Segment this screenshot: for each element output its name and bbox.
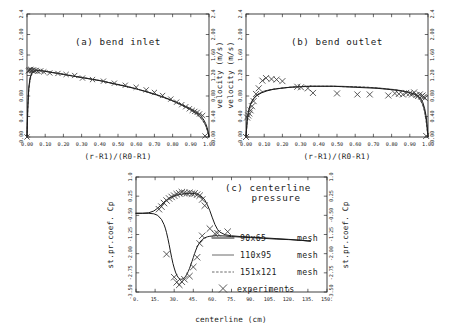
- x-tick-label: 15.: [151, 296, 160, 302]
- x-tick-label: 0.70: [148, 141, 160, 147]
- y-tick-label-right: -2.00: [328, 246, 334, 261]
- y-tick-label-left: 2.00: [18, 29, 24, 41]
- y-tick-label-right: 2.00: [429, 29, 435, 41]
- experiment-marker: [224, 228, 230, 234]
- legend-swatch-marker-x: [219, 285, 227, 293]
- x-tick-label: 75.: [227, 296, 236, 302]
- panel-a-curves: [27, 70, 209, 137]
- panel-a-ylabel: velocity (m/s): [215, 42, 224, 109]
- y-tick-label-right: 2.00: [210, 29, 216, 41]
- panel-b-xlabel: (r-R1)/(R0-R1): [304, 152, 371, 161]
- panel-b-experiment-markers: [243, 75, 429, 140]
- y-tick-label-left: 1.20: [18, 70, 24, 82]
- y-tick-label-right: 2.4: [210, 10, 216, 19]
- experiment-marker: [190, 264, 196, 270]
- x-tick-label: 0.30: [295, 141, 307, 147]
- experiment-marker: [279, 78, 285, 84]
- x-tick-label: 0.: [133, 296, 139, 302]
- legend-label-110x95: 110x95: [240, 250, 271, 260]
- panel-c-title-line2: pressure: [251, 192, 300, 203]
- legend-entry-90x65[interactable]: 90x65 mesh: [212, 233, 318, 243]
- y-tick-label-right: 0.80: [429, 90, 435, 102]
- experiment-marker: [202, 133, 207, 138]
- y-tick-label-right: -2.75: [328, 265, 334, 280]
- panel-c-legend: 90x65 mesh 110x95 mesh 151x121 mesh: [212, 233, 318, 294]
- x-tick-label: 0.10: [39, 141, 51, 147]
- experiment-marker: [385, 92, 391, 98]
- y-tick-label-left: 0.40: [18, 111, 24, 123]
- experiment-marker: [334, 90, 340, 96]
- experiment-marker: [354, 91, 360, 97]
- legend-suffix-90x65: mesh: [297, 233, 318, 243]
- y-tick-label-left: -1.25: [127, 227, 133, 242]
- series-curve: [27, 70, 209, 137]
- panel-b: 0.000.100.200.300.400.500.600.700.800.90…: [226, 10, 435, 161]
- y-tick-label-right: 0.40: [429, 111, 435, 123]
- y-tick-label-left: 0.80: [18, 90, 24, 102]
- multi-panel-figure: 0.000.100.200.300.400.500.600.700.800.90…: [0, 0, 451, 327]
- y-tick-label-left: -3.50: [127, 285, 133, 300]
- y-tick-label-left: -0.50: [127, 208, 133, 223]
- experiment-marker: [367, 91, 373, 97]
- y-tick-label-right: 0.25: [328, 190, 334, 202]
- panel-c-y-ticks-right: 1.00.25-0.50-1.25-2.00-2.75-3.50: [324, 173, 334, 300]
- x-tick-label: 30.: [170, 296, 179, 302]
- x-tick-label: 45.: [189, 296, 198, 302]
- x-tick-label: 0.50: [331, 141, 343, 147]
- panel-a-experiment-markers: [24, 67, 207, 140]
- legend-suffix-110x95: mesh: [297, 250, 318, 260]
- y-tick-label-right: 0.00: [210, 131, 216, 143]
- x-tick-label: 90.: [246, 296, 255, 302]
- x-tick-label: 0.40: [313, 141, 325, 147]
- panel-a-y-ticks-left: 0.000.400.801.201.602.002.4: [18, 10, 30, 143]
- series-curve: [136, 213, 310, 279]
- x-tick-label: 0.90: [404, 141, 416, 147]
- legend-entry-151x121[interactable]: 151x121 mesh: [212, 267, 318, 277]
- panel-c: 0.15.30.45.60.75.90.105.120.135.150. 1.0…: [106, 173, 350, 324]
- experiment-marker: [202, 202, 208, 208]
- experiment-marker: [163, 251, 169, 257]
- panel-b-x-ticks: 0.000.100.200.300.400.500.600.700.800.90…: [240, 14, 434, 147]
- panel-b-title: (b) bend outlet: [291, 36, 383, 47]
- y-tick-label-right: -0.50: [328, 208, 334, 223]
- y-tick-label-left: -2.00: [127, 246, 133, 261]
- experiment-marker: [72, 73, 77, 78]
- x-tick-label: 0.20: [57, 141, 69, 147]
- experiment-marker: [196, 240, 202, 246]
- y-tick-label-left: 2.4: [237, 10, 243, 19]
- x-tick-label: 60.: [208, 296, 217, 302]
- panel-a-title: (a) bend inlet: [75, 36, 161, 47]
- y-tick-label-right: 0.40: [210, 111, 216, 123]
- y-tick-label-left: 0.00: [18, 131, 24, 143]
- y-tick-label-left: 0.40: [237, 111, 243, 123]
- x-tick-label: 0.90: [185, 141, 197, 147]
- x-tick-label: 0.70: [367, 141, 379, 147]
- y-tick-label-left: 0.80: [237, 90, 243, 102]
- panel-b-frame: [246, 14, 428, 137]
- x-tick-label: 135.: [302, 296, 314, 302]
- legend-label-90x65: 90x65: [240, 233, 266, 243]
- y-tick-label-left: 1.20: [237, 70, 243, 82]
- experiment-marker: [263, 75, 269, 81]
- panel-c-xlabel: centerline (cm): [195, 315, 267, 324]
- legend-entry-110x95[interactable]: 110x95 mesh: [212, 250, 318, 260]
- x-tick-label: 0.40: [94, 141, 106, 147]
- x-tick-label: 0.10: [258, 141, 270, 147]
- x-tick-label: 0.60: [130, 141, 142, 147]
- panel-a-xlabel: (r-R1)/(R0-R1): [85, 152, 152, 161]
- y-tick-label-left: 0.00: [237, 131, 243, 143]
- experiment-marker: [310, 90, 316, 96]
- x-tick-label: 105.: [264, 296, 276, 302]
- x-tick-label: 0.30: [76, 141, 88, 147]
- panel-a: 0.000.100.200.300.400.500.600.700.800.90…: [18, 10, 224, 161]
- panel-a-x-ticks: 0.000.100.200.300.400.500.600.700.800.90…: [21, 14, 215, 147]
- y-tick-label-right: 1.0: [328, 173, 334, 182]
- panel-c-ylabel-right: st.pr.coef. Cp: [341, 201, 350, 268]
- legend-label-151x121: 151x121: [240, 267, 277, 277]
- y-tick-label-right: 1.60: [429, 49, 435, 61]
- legend-label-experiments: experiments: [237, 284, 295, 294]
- panel-a-frame: [27, 14, 209, 137]
- y-tick-label-right: 2.4: [429, 10, 435, 19]
- y-tick-label-left: 2.4: [18, 10, 24, 19]
- y-tick-label-left: 1.60: [18, 49, 24, 61]
